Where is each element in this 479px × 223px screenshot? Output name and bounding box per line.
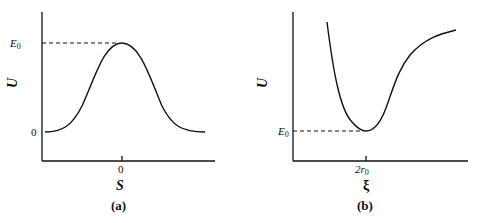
panel-a-xlabel: S (116, 179, 124, 193)
panel-b-caption: (b) (357, 199, 373, 212)
e0-label: E (10, 37, 17, 49)
panel-a-ylabel: U (6, 78, 20, 88)
panel-a-ytick-e0: E0 (10, 38, 21, 51)
panel-b-xtick-2r0: 2r0 (355, 164, 369, 177)
2r-label: 2r (355, 163, 365, 175)
panel-b-ylabel: U (256, 78, 270, 88)
e0-subscript: 0 (17, 42, 21, 51)
panel-a-ytick-zero: 0 (31, 127, 37, 138)
panel-b-ytick-e0: E0 (278, 126, 289, 139)
e0-label: E (278, 125, 285, 137)
panel-a-curve (45, 43, 205, 132)
panel-a-caption: (a) (111, 199, 126, 212)
panel-a-axes (42, 12, 215, 161)
panel-a-xtick-zero: 0 (118, 164, 124, 175)
figure-plots (0, 0, 479, 223)
e0-subscript: 0 (285, 130, 289, 139)
panel-b-xlabel: ξ (363, 179, 369, 193)
panel-b-curve (327, 22, 456, 131)
r0-subscript: 0 (365, 168, 369, 177)
